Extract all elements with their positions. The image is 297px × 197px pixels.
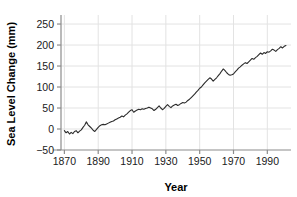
x-tick-label: 1870 bbox=[53, 155, 77, 167]
y-tick-label: 250 bbox=[36, 18, 54, 30]
y-axis-title: Sea Level Change (mm) bbox=[5, 22, 17, 146]
y-tick-label: 150 bbox=[36, 60, 54, 72]
x-tick-label: 1930 bbox=[154, 155, 178, 167]
gridlines-group bbox=[61, 15, 291, 150]
x-tick-labels-group: 1870189019101930195019701990 bbox=[53, 155, 279, 167]
x-tick-label: 1890 bbox=[87, 155, 111, 167]
y-tick-labels-group: −50050100150200250 bbox=[36, 18, 54, 156]
y-tick-label: 0 bbox=[48, 123, 54, 135]
y-tick-label: 100 bbox=[36, 81, 54, 93]
chart-svg: −50050100150200250 187018901910193019501… bbox=[0, 0, 297, 197]
y-tick-label: 50 bbox=[42, 102, 54, 114]
y-tick-label: 200 bbox=[36, 39, 54, 51]
data-series-line bbox=[64, 45, 286, 134]
sea-level-chart: −50050100150200250 187018901910193019501… bbox=[0, 0, 297, 197]
x-tick-label: 1950 bbox=[188, 155, 212, 167]
ticks-group bbox=[57, 24, 267, 154]
x-tick-label: 1970 bbox=[222, 155, 246, 167]
x-tick-label: 1990 bbox=[256, 155, 280, 167]
x-tick-label: 1910 bbox=[120, 155, 144, 167]
x-axis-title: Year bbox=[164, 181, 188, 193]
axes-group bbox=[53, 15, 291, 150]
y-tick-label: −50 bbox=[36, 144, 54, 156]
